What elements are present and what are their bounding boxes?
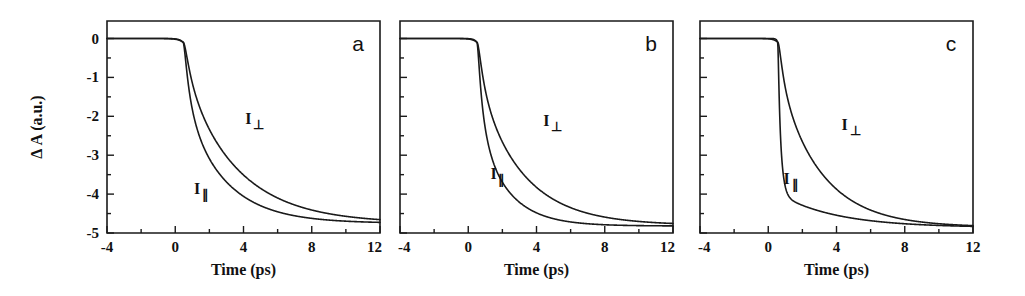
y-tick-label: -3 bbox=[87, 147, 100, 163]
multi-panel-chart: -4048120-1-2-3-4-5Δ A (a.u.)Time (ps)aI⊥… bbox=[0, 0, 1025, 296]
panel-a: -4048120-1-2-3-4-5Δ A (a.u.)Time (ps)aI⊥… bbox=[28, 21, 382, 279]
x-tick-label: 12 bbox=[660, 239, 675, 255]
y-axis-title: Δ A (a.u.) bbox=[28, 95, 46, 158]
x-tick-label: 12 bbox=[966, 239, 981, 255]
plot-frame bbox=[107, 21, 380, 233]
x-tick-label: 4 bbox=[240, 239, 248, 255]
curve-i-parallel bbox=[700, 39, 973, 227]
panel-letter: a bbox=[352, 32, 364, 55]
series-label-subscript-perp: ⊥ bbox=[850, 123, 861, 138]
x-tick-label: 0 bbox=[765, 239, 773, 255]
x-axis-title: Time (ps) bbox=[504, 261, 569, 279]
y-tick-label: -2 bbox=[87, 108, 100, 124]
y-tick-label: -1 bbox=[87, 69, 100, 85]
plot-frame bbox=[700, 21, 973, 233]
panel-c: -404812Time (ps)cI⊥I∥ bbox=[698, 21, 981, 279]
series-label-i-parallel: I bbox=[194, 180, 200, 197]
y-tick-label: 0 bbox=[92, 31, 100, 47]
series-label-subscript-perp: ⊥ bbox=[253, 117, 264, 132]
y-tick-label: -4 bbox=[87, 186, 100, 202]
series-label-subscript-parallel: ∥ bbox=[202, 187, 209, 203]
x-tick-label: 12 bbox=[367, 239, 382, 255]
x-tick-label: 8 bbox=[601, 239, 609, 255]
y-tick-label: -5 bbox=[87, 225, 100, 241]
series-label-subscript-parallel: ∥ bbox=[498, 172, 505, 188]
x-tick-label: 8 bbox=[308, 239, 316, 255]
x-tick-label: -4 bbox=[398, 239, 411, 255]
series-label-i-perp: I bbox=[245, 110, 251, 127]
curve-i-perp bbox=[400, 39, 673, 224]
curve-i-perp bbox=[700, 39, 973, 226]
curve-i-perp bbox=[107, 39, 380, 220]
x-tick-label: 4 bbox=[533, 239, 541, 255]
series-label-i-parallel: I bbox=[490, 165, 496, 182]
curve-i-parallel bbox=[107, 39, 380, 223]
x-tick-label: 4 bbox=[833, 239, 841, 255]
panel-letter: b bbox=[645, 32, 657, 55]
panel-letter: c bbox=[946, 32, 957, 55]
x-tick-label: 8 bbox=[901, 239, 909, 255]
curve-i-parallel bbox=[400, 39, 673, 226]
x-tick-label: 0 bbox=[172, 239, 180, 255]
panel-b: -404812Time (ps)bI⊥I∥ bbox=[398, 21, 675, 279]
series-label-i-parallel: I bbox=[784, 170, 790, 187]
figure-root: -4048120-1-2-3-4-5Δ A (a.u.)Time (ps)aI⊥… bbox=[0, 0, 1025, 296]
x-axis-title: Time (ps) bbox=[211, 261, 276, 279]
series-label-i-perp: I bbox=[842, 116, 848, 133]
x-tick-label: 0 bbox=[465, 239, 473, 255]
series-label-subscript-perp: ⊥ bbox=[551, 119, 562, 134]
x-tick-label: -4 bbox=[698, 239, 711, 255]
series-label-i-perp: I bbox=[543, 112, 549, 129]
x-axis-title: Time (ps) bbox=[804, 261, 869, 279]
x-tick-label: -4 bbox=[101, 239, 114, 255]
series-label-subscript-parallel: ∥ bbox=[792, 177, 799, 193]
plot-frame bbox=[400, 21, 673, 233]
